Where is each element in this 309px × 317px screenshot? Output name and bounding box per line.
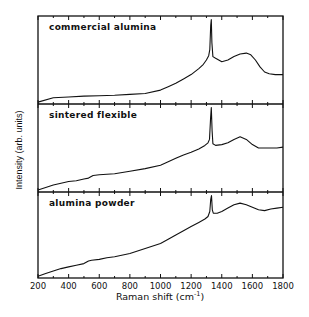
panel-label: alumina powder <box>49 198 135 208</box>
x-axis-title-close: ) <box>200 291 204 302</box>
panel-label: sintered flexible <box>49 110 137 120</box>
x-tick-label: 1600 <box>242 281 264 291</box>
x-axis-ticks: 20040060080010001200140016001800 <box>30 281 294 291</box>
x-axis-title-text: Raman shift (cm <box>116 291 194 302</box>
x-tick-label: 400 <box>61 281 77 291</box>
panel-commercial-alumina: commercial alumina <box>38 16 283 104</box>
x-axis-title: Raman shift (cm-1) <box>116 290 204 302</box>
x-tick-label: 1800 <box>272 281 294 291</box>
raman-spectra-chart: commercial aluminasintered flexiblealumi… <box>0 0 309 317</box>
x-tick-label: 1000 <box>150 281 172 291</box>
x-tick-label: 1400 <box>211 281 233 291</box>
x-tick-label: 800 <box>122 281 138 291</box>
panel-alumina-powder: alumina powder <box>38 192 283 278</box>
plot-panels: commercial aluminasintered flexiblealumi… <box>38 16 283 278</box>
panel-sintered-flexible: sintered flexible <box>38 104 283 192</box>
panel-label: commercial alumina <box>49 22 156 32</box>
y-axis-title: Intensity (arb. units) <box>14 110 24 189</box>
x-tick-label: 200 <box>30 281 46 291</box>
x-tick-label: 600 <box>91 281 107 291</box>
plot-frame <box>38 16 283 278</box>
